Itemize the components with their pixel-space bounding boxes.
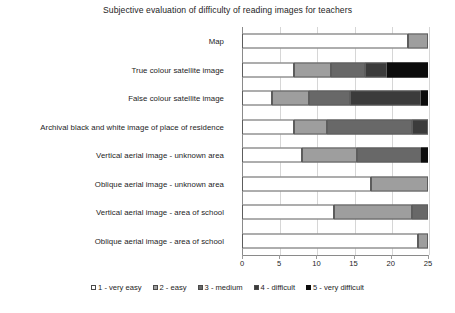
y-axis-category-label: Vertical aerial image - area of school bbox=[96, 208, 224, 217]
legend-swatch-icon bbox=[198, 285, 203, 290]
bar-segment bbox=[418, 233, 428, 248]
x-axis-line bbox=[242, 255, 429, 256]
bar-segment bbox=[387, 62, 428, 77]
stacked-bar bbox=[242, 233, 428, 248]
bar-segment bbox=[242, 119, 294, 134]
chart-category-row: Oblique aerial image - area of school bbox=[0, 227, 455, 256]
bar-segment bbox=[272, 91, 309, 106]
bar-segment bbox=[242, 176, 371, 191]
bar-segment bbox=[408, 34, 428, 49]
bar-segment bbox=[331, 62, 364, 77]
chart-category-row: Vertical aerial image - area of school bbox=[0, 198, 455, 227]
chart-category-row: Oblique aerial image - unknown area bbox=[0, 170, 455, 199]
bar-segment bbox=[357, 148, 420, 163]
y-axis-category-label: True colour satellite image bbox=[132, 65, 225, 74]
bar-segment bbox=[294, 62, 331, 77]
bar-segment bbox=[242, 205, 334, 220]
bar-segment bbox=[242, 62, 294, 77]
y-axis-category-label: Vertical aerial image - unknown area bbox=[96, 151, 224, 160]
stacked-bar bbox=[242, 62, 428, 77]
bar-segment bbox=[365, 62, 387, 77]
legend-item-label: 3 - medium bbox=[205, 283, 243, 292]
x-axis-tick bbox=[391, 255, 392, 259]
chart-figure: Subjective evaluation of difficulty of r… bbox=[0, 0, 455, 313]
chart-legend: 1 - very easy2 - easy3 - medium4 - diffi… bbox=[0, 283, 455, 292]
stacked-bar bbox=[242, 91, 428, 106]
chart-title: Subjective evaluation of difficulty of r… bbox=[0, 5, 455, 15]
y-axis-category-label: Map bbox=[209, 37, 224, 46]
legend-swatch-icon bbox=[254, 285, 259, 290]
legend-item-label: 4 - difficult bbox=[261, 283, 295, 292]
x-axis-tick bbox=[279, 255, 280, 259]
legend-swatch-icon bbox=[153, 285, 158, 290]
bar-segment bbox=[242, 34, 408, 49]
stacked-bar bbox=[242, 119, 428, 134]
stacked-bar bbox=[242, 148, 428, 163]
stacked-bar bbox=[242, 34, 428, 49]
bar-segment bbox=[421, 91, 428, 106]
bar-segment bbox=[309, 91, 350, 106]
x-axis-tick bbox=[242, 255, 243, 259]
legend-item[interactable]: 2 - easy bbox=[153, 283, 187, 292]
y-axis-category-label: Oblique aerial image - unknown area bbox=[95, 179, 224, 188]
chart-category-row: Archival black and white image of place … bbox=[0, 113, 455, 142]
x-axis-tick-labels: 0510152025 bbox=[0, 259, 455, 273]
legend-item[interactable]: 5 - very difficult bbox=[306, 283, 364, 292]
x-axis-tick bbox=[354, 255, 355, 259]
x-axis-tick-label: 5 bbox=[277, 259, 281, 268]
legend-item[interactable]: 4 - difficult bbox=[254, 283, 295, 292]
y-axis-category-label: False colour satellite image bbox=[128, 94, 224, 103]
x-axis-tick bbox=[316, 255, 317, 259]
legend-swatch-icon bbox=[306, 285, 311, 290]
y-axis-category-label: Archival black and white image of place … bbox=[40, 122, 224, 131]
chart-category-row: True colour satellite image bbox=[0, 56, 455, 85]
bar-segment bbox=[294, 119, 327, 134]
bar-segment bbox=[242, 91, 272, 106]
bar-segment bbox=[334, 205, 411, 220]
x-axis-tick-label: 10 bbox=[312, 259, 320, 268]
bar-segment bbox=[302, 148, 358, 163]
x-axis-tick-label: 0 bbox=[240, 259, 244, 268]
x-axis-tick-label: 20 bbox=[387, 259, 395, 268]
y-axis-category-label: Oblique aerial image - area of school bbox=[95, 236, 224, 245]
stacked-bar bbox=[242, 176, 428, 191]
chart-category-row: Map bbox=[0, 27, 455, 56]
legend-item[interactable]: 1 - very easy bbox=[91, 283, 141, 292]
legend-swatch-icon bbox=[91, 285, 96, 290]
x-axis-tick-label: 15 bbox=[349, 259, 357, 268]
legend-item-label: 1 - very easy bbox=[98, 283, 141, 292]
chart-category-row: Vertical aerial image - unknown area bbox=[0, 141, 455, 170]
legend-item-label: 5 - very difficult bbox=[313, 283, 364, 292]
bar-segment bbox=[421, 148, 428, 163]
bar-segment bbox=[327, 119, 412, 134]
chart-category-row: False colour satellite image bbox=[0, 84, 455, 113]
legend-item-label: 2 - easy bbox=[160, 283, 187, 292]
x-axis-tick bbox=[428, 255, 429, 259]
bar-segment bbox=[371, 176, 428, 191]
stacked-bar bbox=[242, 205, 428, 220]
legend-item[interactable]: 3 - medium bbox=[198, 283, 243, 292]
bar-segment bbox=[412, 205, 428, 220]
bar-segment bbox=[242, 148, 302, 163]
bar-segment bbox=[412, 119, 428, 134]
x-axis-tick-label: 25 bbox=[424, 259, 432, 268]
bar-segment bbox=[242, 233, 418, 248]
bar-segment bbox=[350, 91, 421, 106]
